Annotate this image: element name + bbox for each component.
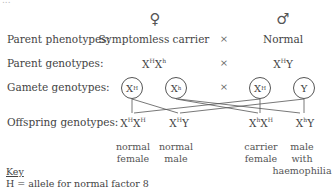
offspring-genotype-2: XHY <box>169 116 189 129</box>
offspring-genotype-4: XhY <box>296 116 314 129</box>
offspring-phenotype-1: normal female <box>116 141 150 165</box>
offspring-phenotype-4: male with haemophilia <box>272 141 331 177</box>
key-line-1: H = allele for normal factor 8 <box>6 178 149 189</box>
offspring-genotype-1: XHXH <box>120 116 145 129</box>
offspring-phenotype-2: normal male <box>159 141 193 165</box>
offspring-genotypes-label: Offspring genotypes: <box>7 116 118 128</box>
key-title: Key <box>6 166 24 177</box>
offspring-genotype-3: XhXH <box>249 116 273 129</box>
